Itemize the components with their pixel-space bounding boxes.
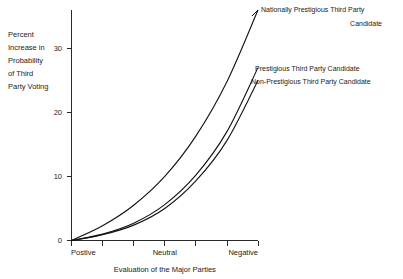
line-chart-canvas: 0 10 20 30 Postive Neutral Negative Eval…	[0, 0, 403, 279]
y-axis-title-line-2: Increase in	[8, 43, 45, 52]
y-axis-title-line-1: Percent	[8, 30, 35, 39]
y-tick-label-10: 10	[54, 172, 62, 181]
y-axis-title-line-5: Party Voting	[8, 82, 48, 91]
chart-figure: 0 10 20 30 Postive Neutral Negative Eval…	[0, 0, 403, 279]
y-axis-title-line-4: of Third	[8, 69, 33, 78]
y-tick-label-30: 30	[54, 44, 62, 53]
series-label-non-prestigious: Non-Prestigious Third Party Candidate	[251, 78, 371, 86]
curve-prestigious	[72, 68, 259, 241]
x-axis-title: Evaluation of the Major Parties	[114, 265, 216, 274]
y-axis-title-line-3: Probability	[8, 56, 43, 65]
y-tick-label-0: 0	[58, 236, 62, 245]
x-tick-label-neutral: Neutral	[153, 248, 178, 257]
series-label-prestigious: Prestigious Third Party Candidate	[255, 65, 360, 73]
curve-non-prestigious	[72, 80, 259, 240]
series-label-nationally-prestigious-line-2: Candidate	[350, 20, 382, 27]
series-label-nationally-prestigious-line-1: Nationally Prestigious Third Party	[261, 6, 365, 14]
y-tick-label-20: 20	[54, 108, 62, 117]
x-tick-label-positive: Postive	[71, 248, 96, 257]
x-tick-label-negative: Negative	[228, 248, 258, 257]
